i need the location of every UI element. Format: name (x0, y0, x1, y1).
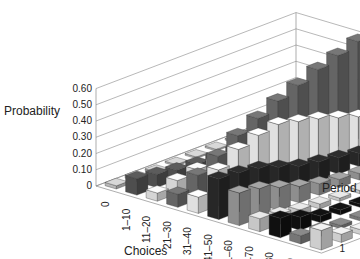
bar (350, 210, 360, 221)
bar (330, 227, 352, 243)
bar (187, 190, 209, 214)
z-axis-label: Probability (4, 104, 60, 118)
bar (126, 171, 148, 195)
bar (208, 171, 230, 219)
x-tick-label: 51–60 (223, 240, 234, 259)
x-tick-label: 41–50 (203, 234, 214, 259)
bar (310, 223, 332, 250)
bar (269, 211, 291, 238)
bar (228, 186, 250, 226)
y-axis-label: Period (322, 181, 357, 195)
bar (290, 228, 312, 244)
bar (146, 167, 168, 188)
bar (146, 186, 168, 202)
bar (289, 210, 311, 231)
bar (329, 203, 351, 215)
x-axis-label: Choices (124, 244, 167, 258)
z-tick-label: 0.60 (62, 83, 92, 94)
x-tick-label: 31–40 (182, 228, 193, 256)
bar (328, 150, 350, 174)
bar (309, 197, 331, 209)
z-tick-label: 0.50 (62, 99, 92, 110)
bar (309, 209, 331, 223)
z-tick-label: 0 (62, 180, 92, 191)
y-tick-label: 1 (340, 243, 346, 254)
z-tick-label: 0.30 (62, 131, 92, 142)
bar (167, 187, 189, 208)
x-tick-label: 0 (100, 201, 111, 207)
bar (105, 178, 127, 189)
bar (268, 180, 290, 210)
x-tick-label: 21–30 (162, 222, 173, 250)
x-tick-label: 1–10 (121, 209, 132, 231)
x-tick-label: 61–70 (244, 246, 255, 259)
bar (249, 211, 271, 232)
bar (288, 179, 310, 203)
z-tick-label: 0.20 (62, 148, 92, 159)
x-tick-label: 71–80 (264, 252, 275, 259)
z-tick-label: 0.10 (62, 164, 92, 175)
bar3d-chart (0, 0, 360, 259)
x-tick-label: 11–20 (141, 216, 152, 243)
z-tick-label: 0.40 (62, 115, 92, 126)
